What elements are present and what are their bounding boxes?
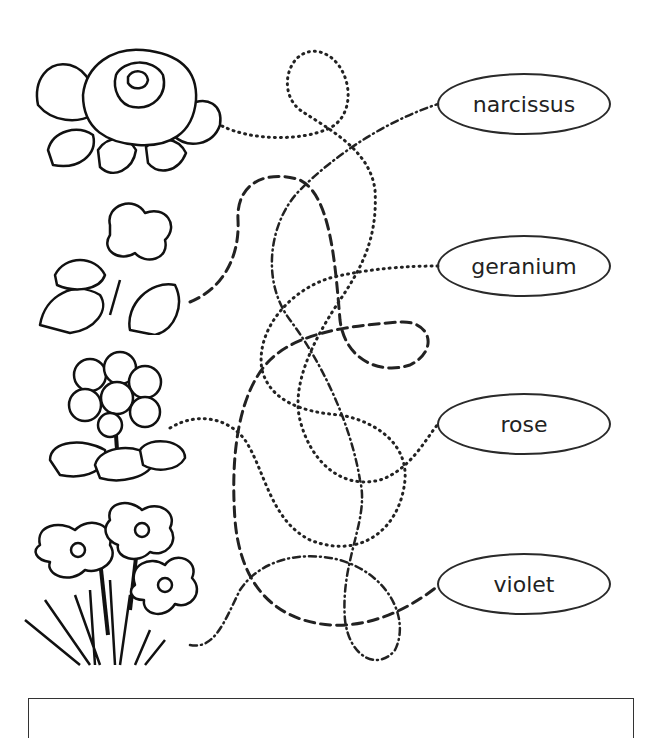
label-geranium[interactable]: geranium xyxy=(437,235,611,297)
geranium-icon xyxy=(45,350,195,485)
label-narcissus[interactable]: narcissus xyxy=(437,73,611,135)
narcissus-icon xyxy=(20,500,210,670)
label-violet[interactable]: violet xyxy=(437,553,611,615)
answer-box xyxy=(28,698,634,738)
path-violet xyxy=(190,176,438,625)
path-narcissus xyxy=(190,104,438,660)
violet-icon xyxy=(35,195,195,335)
rose-icon xyxy=(28,35,228,185)
path-geranium xyxy=(170,266,438,546)
label-rose[interactable]: rose xyxy=(437,393,611,455)
